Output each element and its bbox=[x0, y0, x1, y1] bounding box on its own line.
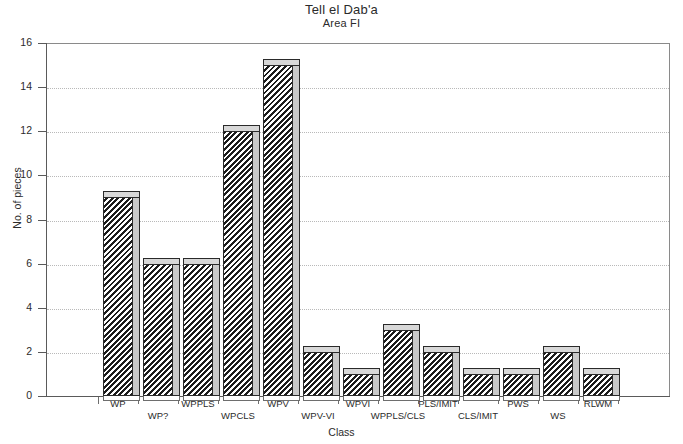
bar bbox=[543, 346, 573, 396]
x-axis-title: Class bbox=[0, 426, 683, 438]
bar-side-face bbox=[373, 374, 380, 396]
x-axis-label: WS bbox=[513, 410, 603, 421]
y-axis-tick bbox=[38, 264, 46, 265]
bar bbox=[223, 125, 253, 396]
x-axis-label: CLS/IMIT bbox=[433, 410, 523, 421]
bar bbox=[103, 191, 133, 396]
gridline bbox=[47, 132, 669, 133]
bar-side-face bbox=[293, 65, 300, 396]
bar-front-face bbox=[423, 352, 453, 396]
bar-base-shadow bbox=[263, 396, 300, 401]
bar-base-shadow bbox=[183, 396, 220, 401]
bar-base-shadow bbox=[143, 396, 180, 401]
y-axis-tick bbox=[38, 396, 46, 397]
bar bbox=[183, 258, 213, 396]
bar bbox=[463, 368, 493, 396]
y-axis-label: 12 bbox=[2, 124, 32, 136]
bar-side-face bbox=[333, 352, 340, 396]
y-axis-line bbox=[46, 43, 47, 397]
y-axis-label: 6 bbox=[2, 257, 32, 269]
bar-front-face bbox=[343, 374, 373, 396]
bar bbox=[263, 59, 293, 396]
bar bbox=[143, 258, 173, 396]
bar-front-face bbox=[303, 352, 333, 396]
bar-base-shadow bbox=[503, 396, 540, 401]
bar-front-face bbox=[263, 65, 293, 396]
y-axis-label: 4 bbox=[2, 301, 32, 313]
bar bbox=[503, 368, 533, 396]
bar bbox=[303, 346, 333, 396]
bar-base-shadow bbox=[463, 396, 500, 401]
y-axis-tick bbox=[38, 87, 46, 88]
bar-front-face bbox=[543, 352, 573, 396]
bar-side-face bbox=[213, 264, 220, 396]
y-axis-label: 16 bbox=[2, 36, 32, 48]
x-axis-label: WPPLS/CLS bbox=[353, 410, 443, 421]
bar bbox=[343, 368, 373, 396]
bar-side-face bbox=[253, 131, 260, 396]
bar-side-face bbox=[573, 352, 580, 396]
bar-front-face bbox=[463, 374, 493, 396]
bar-side-face bbox=[533, 374, 540, 396]
gridline bbox=[47, 176, 669, 177]
bar-front-face bbox=[223, 131, 253, 396]
gridline bbox=[47, 221, 669, 222]
y-axis-title: No. of pieces bbox=[11, 143, 23, 253]
bar-base-shadow bbox=[543, 396, 580, 401]
bar-base-shadow bbox=[383, 396, 420, 401]
bar bbox=[383, 324, 413, 396]
gridline bbox=[47, 88, 669, 89]
y-axis-tick bbox=[38, 43, 46, 44]
bar-base-shadow bbox=[303, 396, 340, 401]
x-axis-label: WPCLS bbox=[193, 410, 283, 421]
y-axis-tick bbox=[38, 175, 46, 176]
bar bbox=[583, 368, 613, 396]
x-axis-label: WP? bbox=[113, 410, 203, 421]
x-axis-label: WPV-VI bbox=[273, 410, 363, 421]
bar-front-face bbox=[143, 264, 173, 396]
y-axis-tick bbox=[38, 308, 46, 309]
bar-chart: Tell el Dab'a Area FI 0246810121416 No. … bbox=[0, 0, 683, 444]
y-axis-tick bbox=[38, 352, 46, 353]
bar-front-face bbox=[383, 330, 413, 396]
bar-side-face bbox=[453, 352, 460, 396]
y-axis-tick bbox=[38, 131, 46, 132]
gridline bbox=[47, 265, 669, 266]
bar-side-face bbox=[493, 374, 500, 396]
bar-base-shadow bbox=[223, 396, 260, 401]
bar-side-face bbox=[173, 264, 180, 396]
bar-side-face bbox=[413, 330, 420, 396]
bar-base-shadow bbox=[583, 396, 620, 401]
bar-front-face bbox=[503, 374, 533, 396]
bar-front-face bbox=[183, 264, 213, 396]
y-axis-label: 2 bbox=[2, 345, 32, 357]
bar-front-face bbox=[583, 374, 613, 396]
y-axis-label: 0 bbox=[2, 389, 32, 401]
bar-base-shadow bbox=[343, 396, 380, 401]
chart-subtitle: Area FI bbox=[0, 17, 683, 29]
y-axis-tick bbox=[38, 220, 46, 221]
bar-side-face bbox=[613, 374, 620, 396]
chart-title: Tell el Dab'a bbox=[0, 2, 683, 17]
bar bbox=[423, 346, 453, 396]
bar-base-shadow bbox=[103, 396, 140, 401]
y-axis-label: 14 bbox=[2, 80, 32, 92]
gridline bbox=[47, 309, 669, 310]
bar-base-shadow bbox=[423, 396, 460, 401]
bar-side-face bbox=[133, 197, 140, 396]
bar-front-face bbox=[103, 197, 133, 396]
